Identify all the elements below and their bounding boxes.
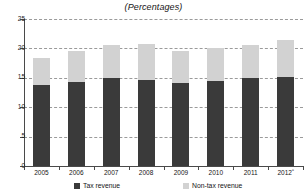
bar-segment-nontax-2007[interactable] <box>103 45 120 78</box>
bar-segment-nontax-2012[interactable] <box>277 40 294 76</box>
y-tick-label-0: 0 <box>9 163 25 170</box>
bar-segment-tax-2007[interactable] <box>103 78 120 166</box>
y-tick-label-15: 15 <box>9 74 25 81</box>
bars-layer <box>24 19 303 166</box>
y-tick-label-5: 5 <box>9 133 25 140</box>
x-tick-label-2006: 2006 <box>59 170 93 177</box>
bar-segment-nontax-2008[interactable] <box>138 44 155 79</box>
chart-title: (Percentages) <box>0 2 307 12</box>
x-tick-end <box>303 166 304 170</box>
revenue-stacked-bar-chart: (Percentages) Tax revenue Non-tax revenu… <box>0 0 307 195</box>
x-tick-label-2010: 2010 <box>199 170 233 177</box>
chart-legend: Tax revenue Non-tax revenue <box>0 182 307 194</box>
y-tick-label-20: 20 <box>9 45 25 52</box>
y-tick-label-25: 25 <box>9 16 25 23</box>
bar-segment-nontax-2005[interactable] <box>33 58 50 86</box>
x-tick-label-2012: 2012ᵃ <box>269 170 303 177</box>
y-tick-label-10: 10 <box>9 104 25 111</box>
bar-segment-tax-2008[interactable] <box>138 80 155 166</box>
bar-segment-nontax-2009[interactable] <box>172 51 189 83</box>
bar-segment-nontax-2006[interactable] <box>68 51 85 82</box>
bar-segment-tax-2005[interactable] <box>33 85 50 166</box>
x-tick-label-2011: 2011 <box>234 170 268 177</box>
x-tick-label-2008: 2008 <box>129 170 163 177</box>
bar-segment-tax-2009[interactable] <box>172 83 189 166</box>
legend-label-tax: Tax revenue <box>83 182 120 189</box>
legend-swatch-tax-icon <box>74 183 80 189</box>
x-tick-label-2005: 2005 <box>24 170 58 177</box>
legend-item-tax-revenue: Tax revenue <box>74 182 120 189</box>
bar-segment-tax-2006[interactable] <box>68 82 85 166</box>
x-tick-label-2009: 2009 <box>164 170 198 177</box>
legend-swatch-nontax-icon <box>183 183 189 189</box>
legend-label-nontax: Non-tax revenue <box>192 182 242 189</box>
bar-segment-nontax-2011[interactable] <box>242 45 259 78</box>
bar-segment-tax-2011[interactable] <box>242 78 259 166</box>
x-tick-label-2007: 2007 <box>94 170 128 177</box>
bar-segment-tax-2012[interactable] <box>277 77 294 166</box>
legend-item-non-tax-revenue: Non-tax revenue <box>183 182 242 189</box>
bar-segment-tax-2010[interactable] <box>207 81 224 166</box>
bar-segment-nontax-2010[interactable] <box>207 48 224 81</box>
